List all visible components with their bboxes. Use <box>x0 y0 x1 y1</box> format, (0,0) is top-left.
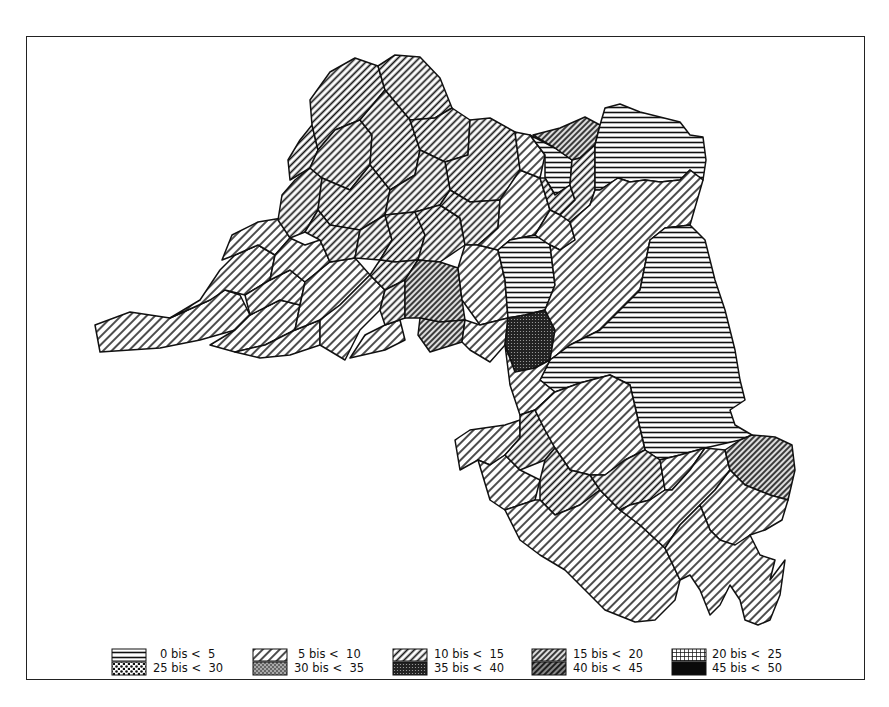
legend-label-35-40: 35 bis < 40 <box>434 662 504 675</box>
legend-swatch-30-35 <box>253 662 287 675</box>
legend-swatch-25-30 <box>112 662 146 675</box>
legend-swatch-20-25 <box>672 649 706 661</box>
legend-label-20-25: 20 bis < 25 <box>712 648 782 661</box>
legend-label-25-30: 25 bis < 30 <box>153 662 223 675</box>
legend-swatch-40-45 <box>532 662 566 675</box>
legend-label-15-20: 15 bis < 20 <box>573 648 643 661</box>
legend-swatch-45-50 <box>672 662 706 675</box>
region[interactable] <box>418 318 465 352</box>
region[interactable] <box>405 260 465 322</box>
legend-label-45-50: 45 bis < 50 <box>712 662 782 675</box>
legend-swatch-35-40 <box>393 662 427 675</box>
legend-label-40-45: 40 bis < 45 <box>573 662 643 675</box>
legend-label-10-15: 10 bis < 15 <box>434 648 504 661</box>
legend-swatch-15-20 <box>532 649 566 661</box>
choropleth-map <box>0 0 889 707</box>
legend-label-5-10: 5 bis < 10 <box>298 648 361 661</box>
legend-label-0-5: 0 bis < 5 <box>160 648 215 661</box>
map-regions <box>95 55 795 625</box>
legend-swatch-5-10 <box>253 649 287 661</box>
legend-swatch-0-5 <box>112 649 146 661</box>
region[interactable] <box>462 318 508 362</box>
legend-swatch-10-15 <box>393 649 427 661</box>
legend-label-30-35: 30 bis < 35 <box>294 662 364 675</box>
